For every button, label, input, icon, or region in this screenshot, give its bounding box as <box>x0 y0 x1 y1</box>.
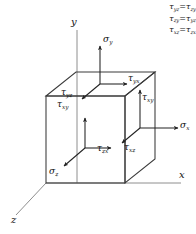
tau-yz-arrow <box>82 84 100 99</box>
y-axis-label: y <box>71 17 77 27</box>
tau-zy-label: τxy <box>57 100 68 109</box>
z-axis-line <box>16 183 46 215</box>
sigma-z-label: σz <box>49 167 58 176</box>
tau-xz-label: τxz <box>124 143 135 152</box>
sigma-z-arrow <box>64 148 85 166</box>
x-axis-label: x <box>179 170 185 180</box>
sigma-x-label: σx <box>180 121 189 130</box>
tau-yz-label: τyz <box>61 88 72 97</box>
coordinate-axes <box>16 30 181 215</box>
shear-reciprocity-legend: τyz=τzy τzy=τyz τxz=τzx <box>134 2 196 37</box>
tau-xy-label: τxy <box>142 93 153 102</box>
stress-arrows <box>64 46 178 166</box>
z-axis-label: z <box>11 215 16 225</box>
stress-element-figure: y x z σy σx σz τyx τyz τxy τxz τzx τxy τ… <box>0 0 196 234</box>
equation-row: τxz=τzx <box>134 25 196 34</box>
tau-zx-label: τzx <box>97 144 108 153</box>
equation-row: τyz=τzy <box>134 2 196 11</box>
equation-row: τzy=τyz <box>134 14 196 23</box>
sigma-y-label: σy <box>103 35 112 44</box>
tau-yx-label: τyx <box>128 74 139 83</box>
